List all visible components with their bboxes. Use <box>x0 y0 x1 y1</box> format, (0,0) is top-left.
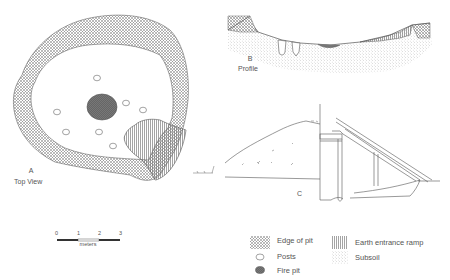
top-view-plan <box>13 15 188 180</box>
post <box>54 109 61 115</box>
ground-marks <box>193 166 214 173</box>
scale-unit: meters <box>74 242 102 248</box>
legend-subsoil: Subsoil <box>355 254 380 262</box>
profile-section <box>228 16 432 73</box>
profile-title: Profile <box>238 65 258 72</box>
post <box>110 143 117 149</box>
scale-tick-1: 1 <box>77 231 80 237</box>
roof-beam <box>336 118 432 182</box>
post-hole <box>278 40 286 55</box>
top-view-title: Top View <box>14 178 42 185</box>
subsoil-swatch <box>332 251 348 264</box>
posts-swatch <box>256 254 264 260</box>
post <box>96 129 103 135</box>
top-view-letter: A <box>25 167 37 174</box>
earth-mound <box>225 121 320 179</box>
scale-tick-3: 3 <box>119 231 122 237</box>
legend-edge-of-pit: Edge of pit <box>277 237 313 245</box>
pit-edge-left <box>228 16 258 32</box>
legend-posts: Posts <box>277 253 296 261</box>
earth-entrance-ramp-swatch <box>332 236 348 249</box>
section-letter: C <box>297 190 302 197</box>
support-post <box>338 139 342 201</box>
post <box>94 75 101 81</box>
reconstruction-section <box>225 104 440 201</box>
post <box>140 107 147 113</box>
fire-pit <box>87 94 117 120</box>
scale-tick-2: 2 <box>98 231 101 237</box>
scale-tick-0: 0 <box>55 231 58 237</box>
post <box>63 129 70 135</box>
fire-pit-swatch <box>256 267 265 274</box>
legend-fire-pit: Fire pit <box>277 267 300 275</box>
post <box>123 100 130 106</box>
edge-of-pit-swatch <box>250 236 270 249</box>
profile-letter: B <box>244 55 256 62</box>
legend-earth-entrance-ramp: Earth entrance ramp <box>355 239 423 247</box>
